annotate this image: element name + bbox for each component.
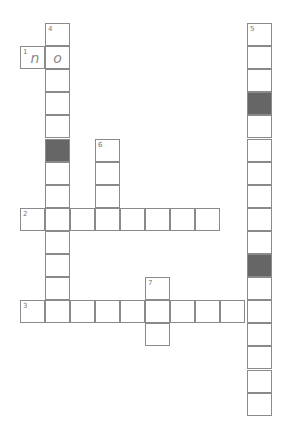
crossword-cell[interactable] <box>247 346 272 369</box>
crossword-cell[interactable] <box>70 208 95 231</box>
crossword-cell[interactable] <box>247 300 272 323</box>
crossword-cell[interactable] <box>145 323 170 346</box>
shaded-cell <box>247 254 272 277</box>
crossword-cell[interactable]: 7 <box>145 277 170 300</box>
crossword-cell[interactable]: 2 <box>20 208 45 231</box>
crossword-cell[interactable] <box>145 208 170 231</box>
crossword-cell[interactable] <box>120 208 145 231</box>
crossword-cell[interactable] <box>247 231 272 254</box>
crossword-cell[interactable] <box>247 46 272 69</box>
crossword-cell[interactable] <box>45 162 70 185</box>
crossword-cell[interactable]: 4 <box>45 23 70 46</box>
shaded-cell <box>45 139 70 162</box>
crossword-cell[interactable] <box>195 208 220 231</box>
clue-number: 5 <box>250 25 254 33</box>
crossword-cell[interactable] <box>247 393 272 416</box>
crossword-cell[interactable] <box>45 254 70 277</box>
crossword-cell[interactable] <box>45 69 70 92</box>
crossword-cell[interactable]: 6 <box>95 139 120 162</box>
crossword-cell[interactable]: 5 <box>247 23 272 46</box>
crossword-cell[interactable]: 1n <box>20 46 45 69</box>
crossword-cell[interactable] <box>45 115 70 138</box>
crossword-cell[interactable] <box>45 92 70 115</box>
clue-number: 2 <box>23 210 27 218</box>
clue-number: 6 <box>98 141 102 149</box>
cell-letter: n <box>26 50 44 66</box>
crossword-cell[interactable] <box>247 208 272 231</box>
crossword-cell[interactable] <box>247 323 272 346</box>
crossword-grid: 41no62735 <box>0 0 288 424</box>
clue-number: 7 <box>148 279 152 287</box>
crossword-cell[interactable] <box>247 162 272 185</box>
crossword-cell[interactable] <box>95 185 120 208</box>
crossword-cell[interactable] <box>45 231 70 254</box>
crossword-cell[interactable] <box>95 208 120 231</box>
crossword-cell[interactable] <box>170 300 195 323</box>
crossword-cell[interactable] <box>45 208 70 231</box>
crossword-cell[interactable] <box>247 277 272 300</box>
clue-number: 4 <box>48 25 52 33</box>
clue-number: 3 <box>23 302 27 310</box>
crossword-cell[interactable] <box>170 208 195 231</box>
crossword-cell[interactable] <box>120 300 145 323</box>
shaded-cell <box>247 92 272 115</box>
crossword-cell[interactable] <box>247 185 272 208</box>
crossword-cell[interactable] <box>247 370 272 393</box>
crossword-cell[interactable] <box>95 300 120 323</box>
crossword-cell[interactable] <box>247 69 272 92</box>
crossword-cell[interactable] <box>70 300 95 323</box>
crossword-cell[interactable] <box>247 139 272 162</box>
crossword-cell[interactable] <box>195 300 220 323</box>
crossword-cell[interactable]: o <box>45 46 70 69</box>
crossword-cell[interactable] <box>45 185 70 208</box>
crossword-cell[interactable] <box>45 277 70 300</box>
crossword-cell[interactable] <box>220 300 245 323</box>
crossword-cell[interactable]: 3 <box>20 300 45 323</box>
crossword-cell[interactable] <box>247 115 272 138</box>
cell-letter: o <box>46 50 69 66</box>
crossword-cell[interactable] <box>95 162 120 185</box>
crossword-cell[interactable] <box>145 300 170 323</box>
crossword-cell[interactable] <box>45 300 70 323</box>
